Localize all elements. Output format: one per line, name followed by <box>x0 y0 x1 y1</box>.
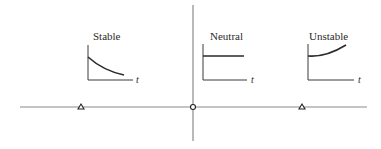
time-axis-label: t <box>136 74 139 85</box>
time-axis-label: t <box>358 74 361 85</box>
inset-stable: Stablet <box>88 30 139 85</box>
inset-title-unstable: Unstable <box>309 30 348 42</box>
insets-group: StabletNeutraltUnstablet <box>88 30 361 85</box>
stable-marker-icon <box>78 104 84 109</box>
neutral-marker-icon <box>191 105 196 110</box>
inset-unstable: Unstablet <box>308 30 361 85</box>
time-axis-label: t <box>251 74 254 85</box>
inset-title-stable: Stable <box>93 30 121 42</box>
response-curve-decaying <box>88 57 124 75</box>
inset-neutral: Neutralt <box>203 30 254 85</box>
stability-diagram: StabletNeutraltUnstablet <box>0 0 381 149</box>
response-curve-growing <box>308 45 346 56</box>
unstable-marker-icon <box>299 104 305 109</box>
inset-title-neutral: Neutral <box>210 30 243 42</box>
